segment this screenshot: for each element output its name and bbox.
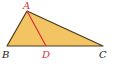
label-b: B <box>1 49 9 60</box>
label-c: C <box>99 49 107 60</box>
label-a: A <box>22 0 30 11</box>
triangle-diagram: A B D C <box>0 0 114 64</box>
label-d: D <box>41 49 50 60</box>
triangle-abc <box>7 11 103 46</box>
triangle-svg: A B D C <box>0 0 114 64</box>
